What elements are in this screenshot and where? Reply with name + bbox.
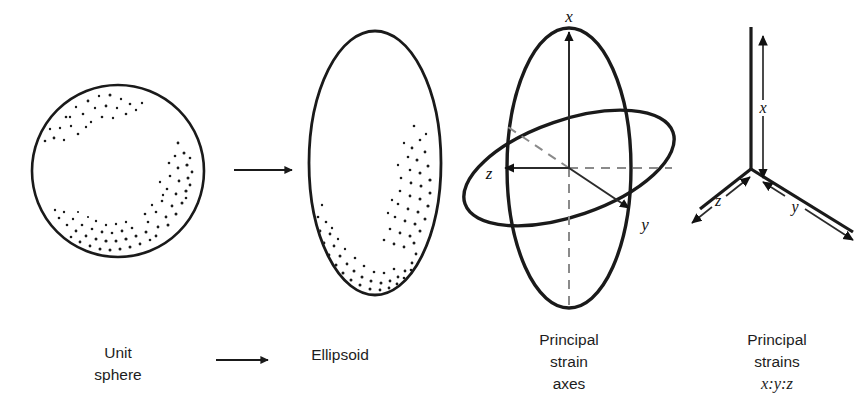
strain-ellipsoid-figure: x z y x y z Unit sphere Ellipsoid Princi… — [0, 0, 863, 416]
triad-y-label: y — [789, 198, 799, 216]
caption-principal-axes-line1: Principal — [539, 331, 598, 348]
caption-unit-sphere-line2: sphere — [94, 366, 141, 383]
axes-x-label: x — [564, 7, 573, 26]
caption-principal-axes-line3: axes — [553, 375, 586, 392]
caption-principal-strains-line3: x:y:z — [760, 374, 794, 393]
caption-unit-sphere-line1: Unit — [104, 344, 132, 361]
caption-principal-axes-line2: strain — [550, 353, 588, 370]
axes-z-label: z — [485, 164, 493, 183]
triad-z-label: z — [714, 192, 722, 209]
axes-y-label: y — [639, 215, 649, 234]
caption-principal-strains-line2: strains — [754, 353, 800, 370]
triad-x-label: x — [758, 99, 766, 116]
caption-ellipsoid-line1: Ellipsoid — [311, 346, 369, 363]
caption-principal-strains-line1: Principal — [747, 331, 806, 348]
